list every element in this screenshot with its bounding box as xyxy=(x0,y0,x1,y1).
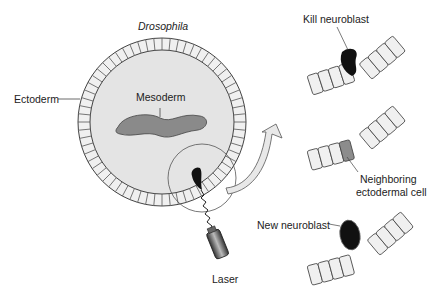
label-mesoderm: Mesoderm xyxy=(136,91,186,103)
label-neighboring-line1: Neighboring xyxy=(360,173,417,185)
diagram-canvas xyxy=(0,0,434,294)
title-drosophila: Drosophila xyxy=(138,20,188,32)
panel-neighboring-cell xyxy=(307,106,406,171)
laser-device-icon xyxy=(204,225,229,260)
label-ectoderm: Ectoderm xyxy=(14,93,59,105)
label-laser: Laser xyxy=(212,273,238,285)
new-leader-line xyxy=(329,224,340,226)
label-kill-neuroblast: Kill neuroblast xyxy=(303,13,369,25)
label-neighboring-line2: ectodermal cell xyxy=(356,186,427,198)
panel-kill-neuroblast xyxy=(307,36,406,95)
kill-leader-line xyxy=(337,27,348,50)
label-new-neuroblast: New neuroblast xyxy=(257,219,330,231)
laser-beam xyxy=(201,190,212,230)
